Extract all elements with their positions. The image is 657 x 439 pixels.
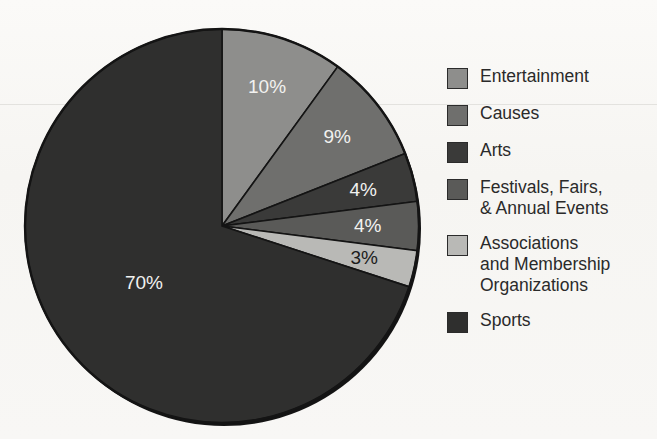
chart-legend: EntertainmentCausesArtsFestivals, Fairs,… bbox=[447, 66, 652, 347]
legend-item-label: Arts bbox=[480, 140, 511, 161]
legend-color-swatch bbox=[447, 142, 468, 163]
pie-chart: 10%9%4%4%3%70% bbox=[0, 0, 440, 439]
legend-item[interactable]: Sports bbox=[447, 310, 652, 333]
legend-item-label: Associations and Membership Organization… bbox=[480, 233, 610, 296]
pie-slice-value-label: 70% bbox=[125, 272, 163, 293]
pie-slice-value-label: 3% bbox=[351, 247, 379, 268]
legend-color-swatch bbox=[447, 105, 468, 126]
legend-color-swatch bbox=[447, 68, 468, 89]
legend-item[interactable]: Causes bbox=[447, 103, 652, 126]
pie-slice-value-label: 4% bbox=[349, 179, 377, 200]
pie-slice-value-label: 10% bbox=[248, 76, 286, 97]
legend-color-swatch bbox=[447, 235, 468, 256]
legend-item-label: Festivals, Fairs, & Annual Events bbox=[480, 177, 608, 219]
pie-slice-value-label: 4% bbox=[354, 215, 382, 236]
legend-item-label: Sports bbox=[480, 310, 531, 331]
legend-item[interactable]: Festivals, Fairs, & Annual Events bbox=[447, 177, 652, 219]
legend-color-swatch bbox=[447, 312, 468, 333]
pie-slice-value-label: 9% bbox=[323, 126, 351, 147]
pie-chart-svg: 10%9%4%4%3%70% bbox=[0, 0, 440, 439]
legend-color-swatch bbox=[447, 179, 468, 200]
legend-item[interactable]: Arts bbox=[447, 140, 652, 163]
legend-item-label: Entertainment bbox=[480, 66, 589, 87]
legend-item-label: Causes bbox=[480, 103, 539, 124]
legend-item[interactable]: Associations and Membership Organization… bbox=[447, 233, 652, 296]
legend-item[interactable]: Entertainment bbox=[447, 66, 652, 89]
